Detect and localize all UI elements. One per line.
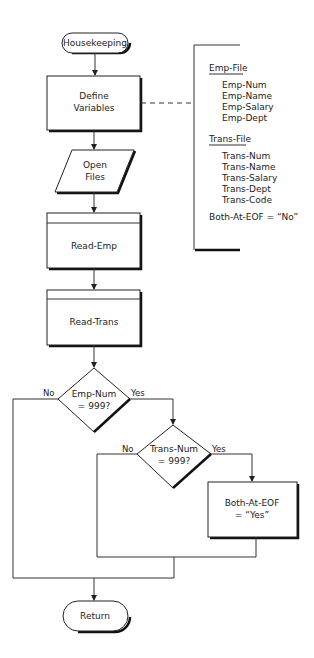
decision1-label-1: Emp-Num — [72, 389, 117, 399]
variables-annotation: Emp-File Emp-Num Emp-Name Emp-Salary Emp… — [194, 45, 298, 250]
open-files-io: Open Files — [55, 150, 135, 193]
emp-field: Emp-Name — [222, 91, 272, 101]
define-label-1: Define — [79, 91, 109, 101]
read-emp-box: Read-Emp — [47, 213, 141, 269]
decision1-yes-label: Yes — [130, 388, 145, 398]
line-join-inner — [97, 537, 256, 557]
read-trans-label: Read-Trans — [70, 317, 119, 327]
both-at-eof-init: Both-At-EOF = “No” — [209, 212, 298, 222]
arrow-decision1-yes — [130, 399, 173, 424]
read-emp-label: Read-Emp — [71, 241, 117, 251]
return-terminal: Return — [63, 601, 130, 632]
emp-field: Emp-Salary — [222, 102, 274, 112]
set-eof-label-2: = “Yes” — [235, 510, 269, 520]
read-trans-box: Read-Trans — [47, 290, 141, 346]
decision2-label-1: Trans-Num — [149, 444, 198, 454]
start-terminal: Housekeeping — [62, 33, 130, 53]
trans-field: Trans-Name — [221, 162, 276, 172]
set-both-at-eof-box: Both-At-EOF = “Yes” — [208, 482, 298, 538]
decision-emp-num: Emp-Num = 999? — [58, 368, 130, 432]
define-variables-box: Define Variables — [47, 76, 141, 131]
decision2-no-label: No — [122, 444, 134, 454]
emp-file-title: Emp-File — [209, 63, 248, 73]
line-decision2-no — [97, 454, 137, 557]
return-label: Return — [80, 611, 110, 621]
define-label-2: Variables — [73, 103, 114, 113]
emp-field: Emp-Dept — [222, 113, 268, 123]
start-label: Housekeeping — [63, 38, 127, 48]
open-label-2: Files — [85, 172, 105, 182]
trans-field: Trans-Num — [221, 151, 270, 161]
decision1-label-2: = 999? — [78, 401, 111, 411]
trans-file-title: Trans-File — [208, 134, 252, 144]
trans-field: Trans-Dept — [221, 184, 271, 194]
decision2-label-2: = 999? — [158, 456, 191, 466]
decision-trans-num: Trans-Num = 999? — [137, 425, 211, 488]
decision1-no-label: No — [43, 388, 55, 398]
flowchart: Housekeeping Define Variables Open Files… — [0, 0, 314, 658]
trans-field: Trans-Salary — [221, 173, 278, 183]
decision2-yes-label: Yes — [211, 444, 226, 454]
open-label-1: Open — [83, 160, 107, 170]
emp-field: Emp-Num — [222, 80, 267, 90]
line-decision1-no — [13, 399, 58, 578]
set-eof-label-1: Both-At-EOF — [225, 498, 280, 508]
arrow-decision2-yes — [211, 454, 252, 481]
trans-field: Trans-Code — [221, 195, 273, 205]
line-join-outer — [13, 557, 174, 578]
